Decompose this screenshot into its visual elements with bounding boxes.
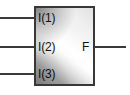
input-wire-1	[0, 17, 35, 19]
input-label-3: I(3)	[38, 68, 55, 80]
output-label-f: F	[82, 41, 89, 53]
input-label-1: I(1)	[38, 12, 55, 24]
input-wire-2	[0, 46, 35, 48]
output-wire-f	[94, 46, 126, 48]
diagram-canvas: I(1) I(2) I(3) F	[0, 0, 130, 95]
input-wire-3	[0, 73, 35, 75]
input-label-2: I(2)	[38, 41, 55, 53]
